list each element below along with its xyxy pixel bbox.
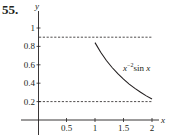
chart: 55. y x 0.2 0.4 0.6 0.8 1 0.5 1 1.5 2: [0, 0, 172, 137]
y-tick-label: 0.4: [24, 78, 36, 88]
x-tick-labels: 0.5 1 1.5 2: [61, 123, 154, 133]
curve-label-func: sin: [133, 63, 146, 73]
x-tick-label: 1.5: [118, 123, 130, 133]
problem-number: 55.: [2, 2, 18, 17]
y-tick-label: 1: [31, 23, 36, 33]
y-tick-label: 0.8: [24, 41, 36, 51]
x-tick-label: 2: [150, 123, 155, 133]
axes: [21, 11, 159, 135]
curve-label: x−2sin x: [122, 62, 150, 73]
y-tick-label: 0.6: [24, 60, 36, 70]
x-tick-label: 0.5: [61, 123, 73, 133]
y-tick-labels: 0.2 0.4 0.6 0.8 1: [24, 23, 36, 107]
x-tick-label: 1: [93, 123, 98, 133]
curve-label-var: x: [145, 63, 150, 73]
y-tick-label: 0.2: [24, 97, 35, 107]
y-axis-label: y: [34, 1, 39, 11]
x-axis-label: x: [160, 115, 165, 125]
